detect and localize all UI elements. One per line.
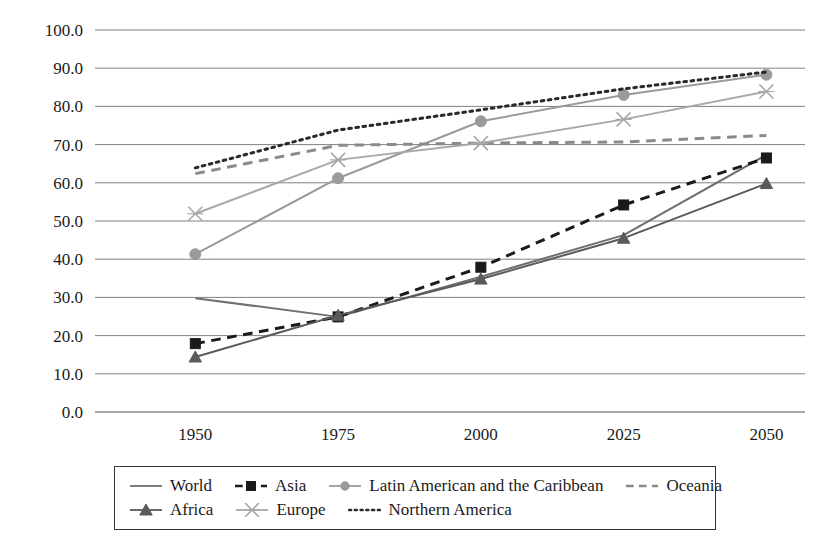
- data-point: [330, 153, 346, 167]
- legend-item-asia[interactable]: Asia: [234, 476, 306, 496]
- series-world: [195, 155, 766, 317]
- legend-key-asia: [234, 479, 268, 493]
- legend-item-latin-american-and-the-caribbean[interactable]: Latin American and the Caribbean: [328, 476, 603, 496]
- x-tick-label: 2050: [749, 425, 783, 444]
- y-tick-label: 60.0: [53, 174, 83, 193]
- data-point: [190, 339, 200, 349]
- series-line: [195, 155, 766, 317]
- y-tick-label: 10.0: [53, 365, 83, 384]
- x-tick-label: 2000: [464, 425, 498, 444]
- x-tick-label: 1950: [178, 425, 212, 444]
- legend-key-oceania: [625, 479, 659, 493]
- data-point: [476, 262, 486, 272]
- y-tick-label: 0.0: [62, 403, 83, 422]
- data-point: [187, 207, 203, 221]
- series-line: [195, 158, 766, 344]
- legend-key-northern-america: [348, 503, 382, 517]
- legend-key-europe: [235, 503, 269, 517]
- y-tick-label: 50.0: [53, 212, 83, 231]
- series-oceania: [195, 135, 766, 173]
- legend-label: Asia: [275, 476, 306, 496]
- data-point: [619, 200, 629, 210]
- legend-item-europe[interactable]: Europe: [235, 500, 325, 520]
- x-tick-label: 1975: [321, 425, 355, 444]
- legend-label: Latin American and the Caribbean: [369, 476, 603, 496]
- y-axis-tick-labels: 0.010.020.030.040.050.060.070.080.090.01…: [45, 21, 83, 422]
- data-point: [333, 173, 344, 184]
- data-point: [473, 136, 489, 150]
- chart-legend: WorldAsiaLatin American and the Caribbea…: [114, 466, 716, 530]
- data-point: [761, 153, 771, 163]
- data-point: [616, 112, 632, 126]
- legend-item-oceania[interactable]: Oceania: [625, 476, 722, 496]
- data-point: [190, 249, 201, 260]
- legend-row: AfricaEuropeNorthern America: [129, 498, 705, 522]
- legend-key-world: [129, 479, 163, 493]
- y-tick-label: 90.0: [53, 59, 83, 78]
- data-point: [475, 116, 486, 127]
- data-point: [618, 89, 629, 100]
- legend-key-africa: [129, 503, 163, 517]
- x-axis-tick-labels: 19501975200020252050: [178, 425, 783, 444]
- y-tick-label: 30.0: [53, 288, 83, 307]
- y-tick-label: 20.0: [53, 327, 83, 346]
- x-tick-label: 2025: [607, 425, 641, 444]
- series-line: [195, 135, 766, 173]
- legend-item-northern-america[interactable]: Northern America: [348, 500, 512, 520]
- y-tick-label: 40.0: [53, 250, 83, 269]
- legend-label: Oceania: [666, 476, 722, 496]
- data-point: [758, 85, 774, 99]
- legend-item-africa[interactable]: Africa: [129, 500, 213, 520]
- legend-label: Europe: [276, 500, 325, 520]
- legend-label: Northern America: [389, 500, 512, 520]
- legend-row: WorldAsiaLatin American and the Caribbea…: [129, 474, 705, 498]
- series-layer: [187, 69, 774, 362]
- y-tick-label: 80.0: [53, 97, 83, 116]
- series-line: [195, 75, 766, 255]
- legend-label: World: [170, 476, 212, 496]
- y-tick-label: 70.0: [53, 136, 83, 155]
- legend-item-world[interactable]: World: [129, 476, 212, 496]
- y-tick-label: 100.0: [45, 21, 83, 40]
- line-chart: 0.010.020.030.040.050.060.070.080.090.01…: [0, 0, 827, 549]
- data-point: [761, 69, 772, 80]
- legend-key-latin-american-and-the-caribbean: [328, 479, 362, 493]
- legend-label: Africa: [170, 500, 213, 520]
- series-latin-american-and-the-caribbean: [190, 69, 772, 260]
